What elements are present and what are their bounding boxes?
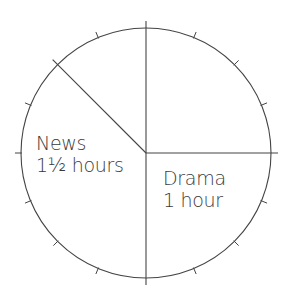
drama-label-value: 1 hour	[163, 189, 226, 211]
tick-mark	[234, 60, 239, 65]
news-label-value: 1½ hours	[36, 154, 124, 176]
drama-label-title: Drama	[163, 167, 226, 189]
news-slice-label: News 1½ hours	[36, 132, 124, 176]
news-label-title: News	[36, 132, 124, 154]
tick-mark	[53, 241, 58, 246]
drama-slice-label: Drama 1 hour	[163, 167, 226, 211]
tick-mark	[234, 241, 239, 246]
